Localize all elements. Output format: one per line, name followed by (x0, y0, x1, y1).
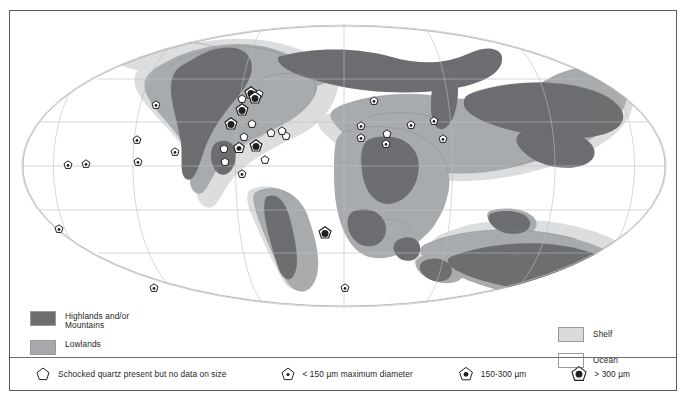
legend-item-highlands: Highlands and/or Mountains (30, 311, 260, 331)
highlands-swatch (30, 311, 56, 326)
map-marker-dot (228, 121, 235, 128)
map-marker-dot (360, 137, 363, 140)
pentagon-open-icon (34, 365, 52, 383)
map-marker-dot (344, 287, 347, 290)
map-marker-dot (237, 146, 242, 151)
legend-symbol-quartz-150-300: 150-300 µm (457, 365, 526, 383)
map-marker-dot (360, 125, 363, 128)
pentagon-medium-dot-icon (457, 365, 475, 383)
legend-symbol-quartz-no-size: Schocked quartz present but no data on s… (34, 365, 227, 383)
map-marker-dot (252, 95, 259, 102)
map-canvas (20, 21, 668, 311)
symbol-legend: Schocked quartz present but no data on s… (10, 358, 676, 390)
figure-root: Highlands and/or Mountains Lowlands Shel… (0, 0, 686, 400)
pentagon-small-dot-icon (279, 365, 297, 383)
lowlands-swatch (30, 340, 56, 355)
legend-symbol-label-2: 150-300 µm (481, 369, 526, 379)
map-marker-dot (373, 100, 376, 103)
map-marker-dot (410, 124, 413, 127)
map-marker-dot (442, 138, 445, 141)
map-marker-dot (67, 164, 70, 167)
map-marker-dot (322, 230, 329, 237)
legend-item-lowlands: Lowlands (30, 340, 260, 355)
map-marker-dot (137, 161, 140, 164)
area-legend-left: Highlands and/or Mountains Lowlands (30, 311, 260, 364)
map-marker-dot (239, 107, 246, 114)
legend-symbol-quartz-gt-300: > 300 µm (570, 365, 630, 383)
legend-item-shelf: Shelf (558, 327, 654, 342)
map-marker-dot (253, 143, 260, 150)
shelf-swatch (558, 327, 584, 342)
highlands-label: Highlands and/or Mountains (65, 311, 129, 331)
map-marker-dot (174, 151, 177, 154)
map-marker-dot (136, 139, 139, 142)
map-marker-dot (385, 143, 388, 146)
world-map-svg (20, 21, 668, 311)
legend-symbol-quartz-lt-150: < 150 µm maximum diameter (279, 365, 413, 383)
map-marker-dot (58, 228, 61, 231)
map-marker-dot (153, 287, 156, 290)
map-marker-dot (85, 163, 88, 166)
map-marker-dot (241, 173, 244, 176)
shelf-label: Shelf (593, 329, 612, 339)
map-marker-dot (433, 120, 436, 123)
legend-symbol-label-0: Schocked quartz present but no data on s… (58, 369, 227, 379)
legend-symbol-label-3: > 300 µm (594, 369, 630, 379)
figure-frame: Highlands and/or Mountains Lowlands Shel… (9, 10, 677, 391)
pentagon-large-dot-icon (570, 365, 588, 383)
lowlands-label: Lowlands (65, 340, 101, 350)
legend-symbol-label-1: < 150 µm maximum diameter (303, 369, 413, 379)
map-marker-dot (155, 104, 158, 107)
